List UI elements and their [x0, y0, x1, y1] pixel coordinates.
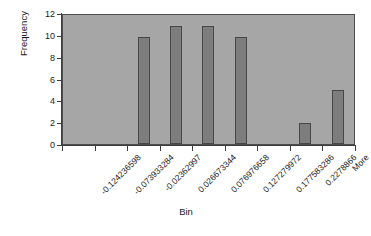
x-axis-tick: [160, 146, 161, 151]
x-axis-line: [61, 145, 356, 146]
x-axis-tick: [290, 146, 291, 151]
y-axis-tick: [57, 58, 62, 59]
x-axis-tick: [127, 146, 128, 151]
y-axis-tick-label: 12: [45, 10, 55, 19]
bar-cell: [128, 15, 160, 144]
x-axis-tick: [257, 146, 258, 151]
y-axis-tick-label: 10: [45, 32, 55, 41]
y-axis-tick-label: 6: [50, 76, 55, 85]
y-axis-tick-label: 8: [50, 54, 55, 63]
y-axis-title: Frequency: [18, 32, 29, 44]
bar-cell: [192, 15, 224, 144]
plot-area: [62, 14, 355, 145]
bar-cell: [225, 15, 257, 144]
bar[interactable]: [299, 123, 311, 145]
y-axis-tick: [57, 14, 62, 15]
x-axis-title-text: Bin: [179, 206, 193, 217]
bar[interactable]: [170, 26, 182, 144]
y-axis-tick: [57, 36, 62, 37]
y-axis-tick: [57, 80, 62, 81]
y-axis-tick-label: 4: [50, 97, 55, 106]
bar-cell: [322, 15, 354, 144]
bars-layer: [63, 15, 354, 144]
x-axis-tick: [62, 146, 63, 151]
y-axis-tick-label: 0: [50, 141, 55, 150]
bar[interactable]: [332, 90, 344, 144]
bar[interactable]: [235, 37, 247, 145]
bar-cell: [257, 15, 289, 144]
x-axis-tick: [322, 146, 323, 151]
x-axis-tick: [95, 146, 96, 151]
y-axis-tick-label: 2: [50, 119, 55, 128]
bar[interactable]: [202, 26, 214, 144]
x-axis-tick: [355, 146, 356, 151]
y-axis-title-text: Frequency: [18, 44, 29, 56]
x-axis-title: Bin: [0, 206, 366, 217]
x-axis-tick: [192, 146, 193, 151]
bar-cell: [63, 15, 95, 144]
bar-cell: [95, 15, 127, 144]
bar[interactable]: [138, 37, 150, 145]
bar-cell: [289, 15, 321, 144]
x-axis-tick: [225, 146, 226, 151]
bar-cell: [160, 15, 192, 144]
y-axis-tick: [57, 123, 62, 124]
y-axis-tick: [57, 101, 62, 102]
